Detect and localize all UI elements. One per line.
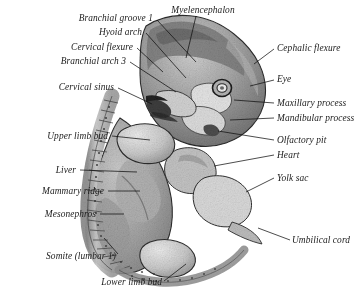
label-yolk-sac: Yolk sac bbox=[277, 173, 308, 183]
label-hyoid-arch: Hyoid arch bbox=[99, 27, 142, 37]
eye-structure bbox=[213, 80, 232, 97]
label-branchial-groove-1: Branchial groove 1 bbox=[79, 13, 153, 23]
label-cervical-flexure: Cervical flexure bbox=[71, 42, 133, 52]
label-mammary-ridge: Mammary ridge bbox=[42, 186, 104, 196]
label-upper-limb-bud: Upper limb bud bbox=[47, 131, 108, 141]
label-branchial-arch-3: Branchial arch 3 bbox=[61, 56, 126, 66]
label-liver: Liver bbox=[56, 165, 76, 175]
embryo-body bbox=[86, 15, 266, 277]
label-maxillary-process: Maxillary process bbox=[277, 98, 346, 108]
label-mandibular-process: Mandibular process bbox=[277, 113, 354, 123]
yolk-sac bbox=[193, 176, 251, 227]
label-eye: Eye bbox=[277, 74, 291, 84]
label-lower-limb-bud: Lower limb bud bbox=[101, 277, 162, 287]
anatomical-plate: Myelencephalon Branchial groove 1 Hyoid … bbox=[0, 0, 359, 297]
label-myelencephalon: Myelencephalon bbox=[171, 5, 234, 15]
label-somite-lumbar-1: Somite (lumbar 1) bbox=[46, 251, 116, 261]
label-mesonephros: Mesonephros bbox=[45, 209, 96, 219]
label-cephalic-flexure: Cephalic flexure bbox=[277, 43, 340, 53]
label-cervical-sinus: Cervical sinus bbox=[59, 82, 114, 92]
umbilical-cord bbox=[228, 222, 262, 244]
lower-limb-bud bbox=[140, 240, 196, 278]
label-heart: Heart bbox=[277, 150, 299, 160]
label-umbilical-cord: Umbilical cord bbox=[292, 235, 350, 245]
label-olfactory-pit: Olfactory pit bbox=[277, 135, 326, 145]
